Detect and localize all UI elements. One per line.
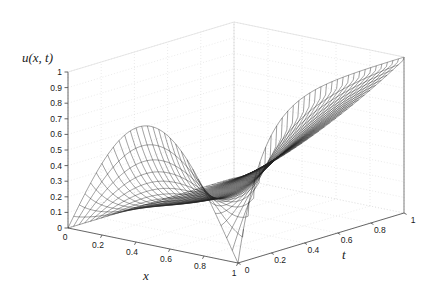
t-tick-0: 0: [245, 265, 250, 275]
z-tick-0: 0: [57, 223, 62, 233]
axis-frame-layer: [68, 22, 404, 213]
t-tick-0.2: 0.2: [274, 255, 286, 265]
z-tick-0.9: 0.9: [50, 83, 62, 93]
t-tick-0.8: 0.8: [374, 225, 386, 235]
z-tick-1: 1: [57, 67, 62, 77]
mesh-layer: [68, 57, 404, 263]
t-tick-0.4: 0.4: [307, 245, 319, 255]
z-tick-0.7: 0.7: [50, 114, 62, 124]
x-axis-label: x: [143, 268, 149, 284]
z-tick-0.6: 0.6: [50, 129, 62, 139]
z-tick-0.4: 0.4: [50, 161, 62, 171]
x-tick-1: 1: [232, 268, 237, 278]
x-tick-0: 0: [63, 232, 68, 242]
figure-3d-mesh-plot: u(x, t) x t 00.10.20.30.40.50.60.70.80.9…: [0, 0, 438, 308]
x-tick-0.2: 0.2: [92, 240, 104, 250]
z-tick-0.5: 0.5: [50, 145, 62, 155]
grid-layer: [68, 22, 404, 263]
t-tick-0.6: 0.6: [341, 235, 353, 245]
z-tick-0.1: 0.1: [50, 207, 62, 217]
x-tick-0.6: 0.6: [160, 254, 172, 264]
z-tick-0.3: 0.3: [50, 176, 62, 186]
t-axis-label: t: [342, 247, 346, 263]
t-tick-1: 1: [411, 215, 416, 225]
x-tick-0.8: 0.8: [194, 261, 206, 271]
z-tick-0.2: 0.2: [50, 192, 62, 202]
plot-canvas: [0, 0, 438, 308]
z-tick-0.8: 0.8: [50, 98, 62, 108]
z-axis-label: u(x, t): [22, 50, 53, 66]
x-tick-0.4: 0.4: [126, 247, 138, 257]
